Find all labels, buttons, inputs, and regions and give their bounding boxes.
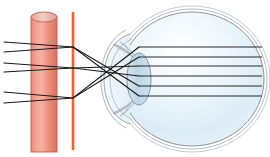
object-cylinder-body [31, 17, 57, 152]
optics-diagram-canvas [0, 0, 270, 157]
crystalline-lens [127, 53, 151, 105]
optics-ray-diagram-figure [0, 0, 270, 157]
object-cylinder-top [31, 12, 57, 22]
crystalline-lens-group [127, 53, 151, 105]
aperture-plane-group [72, 12, 75, 150]
object-cylinder-group [31, 12, 57, 152]
aperture-plane-line [72, 12, 75, 150]
